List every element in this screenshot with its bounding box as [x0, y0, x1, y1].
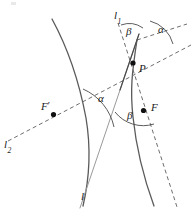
hyperbola-diagram: l1 l2 l P F F′ α α β β: [0, 0, 194, 218]
angle-arc-beta-low: [115, 112, 154, 126]
tangent-line-upper-segment: [120, 34, 139, 90]
label-l2: l2: [4, 139, 11, 153]
label-point-P: P: [139, 63, 146, 74]
left-hyperbola-branch: [52, 19, 89, 206]
angle-arc-beta-top: [121, 24, 143, 28]
label-focus-F: F: [151, 102, 158, 113]
label-angle-beta-low: β: [127, 110, 132, 121]
label-angle-alpha-mid: α: [98, 93, 104, 104]
point-P-dot: [130, 60, 135, 65]
label-l1: l1: [114, 10, 121, 24]
focus-F-prime-dot: [51, 112, 56, 117]
label-focus-F-prime: F′: [41, 101, 50, 112]
label-l: l: [81, 191, 84, 202]
focus-F-dot: [141, 108, 146, 113]
label-angle-alpha-top: α: [158, 24, 164, 35]
label-angle-beta-top: β: [126, 26, 131, 37]
figure-canvas: [0, 0, 194, 218]
